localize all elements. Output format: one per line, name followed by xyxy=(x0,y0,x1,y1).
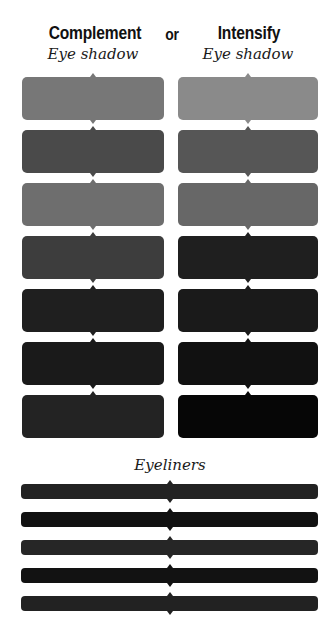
connector-notch-icon xyxy=(245,226,251,230)
eyeshadow-swatch-intensify-5 xyxy=(178,289,318,332)
connector-notch-icon xyxy=(90,285,96,289)
connector-notch-icon xyxy=(245,279,251,283)
title-or: or xyxy=(159,25,185,45)
connector-notch-icon xyxy=(245,179,251,183)
connector-notch-icon xyxy=(167,536,173,540)
connector-notch-icon xyxy=(245,126,251,130)
subtitle-complement-eyeshadow: Eye shadow xyxy=(33,45,153,63)
connector-notch-icon xyxy=(167,480,173,484)
eyeshadow-swatch-intensify-1 xyxy=(178,77,318,120)
connector-notch-icon xyxy=(245,73,251,77)
eyeshadow-swatch-complement-2 xyxy=(22,130,164,173)
connector-notch-icon xyxy=(245,332,251,336)
eyeliner-bar-4 xyxy=(21,568,318,583)
connector-notch-icon xyxy=(245,391,251,395)
connector-notch-icon xyxy=(245,232,251,236)
connector-notch-icon xyxy=(167,499,173,503)
connector-notch-icon xyxy=(90,173,96,177)
eyeshadow-swatch-complement-6 xyxy=(22,342,164,385)
subtitle-intensify-eyeshadow: Eye shadow xyxy=(188,45,308,63)
title-complement: Complement xyxy=(48,22,141,44)
title-intensify: Intensify xyxy=(206,22,293,44)
connector-notch-icon xyxy=(167,611,173,615)
eyeshadow-swatch-complement-7 xyxy=(22,395,164,438)
eyeshadow-swatch-intensify-6 xyxy=(178,342,318,385)
connector-notch-icon xyxy=(245,385,251,389)
eyeliner-bar-3 xyxy=(21,540,318,555)
eyeshadow-swatch-intensify-7 xyxy=(178,395,318,438)
connector-notch-icon xyxy=(90,226,96,230)
connector-notch-icon xyxy=(245,173,251,177)
connector-notch-icon xyxy=(90,279,96,283)
connector-notch-icon xyxy=(245,285,251,289)
connector-notch-icon xyxy=(167,527,173,531)
eyeshadow-swatch-complement-1 xyxy=(22,77,164,120)
connector-notch-icon xyxy=(245,338,251,342)
connector-notch-icon xyxy=(90,391,96,395)
eyeliner-bar-5 xyxy=(21,596,318,611)
connector-notch-icon xyxy=(167,508,173,512)
connector-notch-icon xyxy=(167,583,173,587)
connector-notch-icon xyxy=(90,338,96,342)
connector-notch-icon xyxy=(90,332,96,336)
connector-notch-icon xyxy=(90,126,96,130)
eyeshadow-swatch-complement-5 xyxy=(22,289,164,332)
connector-notch-icon xyxy=(90,232,96,236)
eyeshadow-swatch-complement-3 xyxy=(22,183,164,226)
connector-notch-icon xyxy=(245,120,251,124)
connector-notch-icon xyxy=(90,120,96,124)
connector-notch-icon xyxy=(167,564,173,568)
connector-notch-icon xyxy=(167,555,173,559)
eyeshadow-swatch-intensify-4 xyxy=(178,236,318,279)
connector-notch-icon xyxy=(167,592,173,596)
eyeliner-bar-1 xyxy=(21,484,318,499)
eyeliners-title: Eyeliners xyxy=(110,456,230,474)
connector-notch-icon xyxy=(90,385,96,389)
connector-notch-icon xyxy=(90,73,96,77)
eyeshadow-swatch-complement-4 xyxy=(22,236,164,279)
eyeshadow-swatch-intensify-2 xyxy=(178,130,318,173)
eyeliner-bar-2 xyxy=(21,512,318,527)
eyeshadow-swatch-intensify-3 xyxy=(178,183,318,226)
connector-notch-icon xyxy=(90,179,96,183)
